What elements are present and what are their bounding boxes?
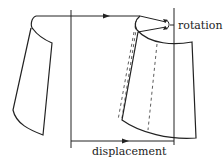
rotation-label: rotation (178, 19, 223, 32)
rotation-line-bottom (138, 27, 166, 32)
ghost-shape-right-edge (148, 44, 157, 130)
ghost-shape-inner-edge (118, 32, 134, 120)
original-shape (13, 16, 52, 135)
displacement-arrowhead-icon (122, 139, 129, 144)
diagram-canvas: rotation displacement (0, 0, 224, 162)
rotation-line-top (140, 16, 166, 22)
top-arrowhead-icon (103, 14, 110, 19)
displacement-label: displacement (92, 145, 167, 158)
displaced-rotated-shape (122, 16, 196, 138)
